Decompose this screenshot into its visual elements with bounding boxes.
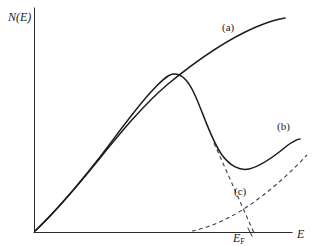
fermi-energy-subscript: F — [240, 237, 244, 246]
fermi-energy-label: EF — [233, 232, 245, 246]
figure-root: N(E) E (a) (b) (c) EF — [0, 0, 315, 246]
x-axis-label: E — [297, 228, 304, 240]
curve-b-label: (b) — [277, 121, 290, 132]
curve-c-label: (c) — [234, 186, 246, 197]
y-axis-label: N(E) — [8, 11, 31, 23]
curve-a-path — [35, 18, 285, 231]
curve-a-label: (a) — [222, 22, 234, 33]
plot-canvas — [0, 0, 315, 246]
curve-b-path — [35, 74, 300, 231]
curve-c-path — [192, 155, 307, 231]
